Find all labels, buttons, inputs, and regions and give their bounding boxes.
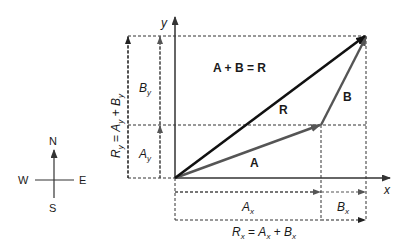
compass-north: N [49, 135, 57, 147]
compass-east: E [79, 174, 86, 186]
vector-addition-diagram: x y A + B = R R B A By Ay Ax Bx Rx = Ax … [0, 0, 400, 248]
bx-label: Bx [337, 200, 350, 216]
vector-a-label: A [250, 156, 259, 170]
compass-rose: N S W E [18, 135, 86, 214]
vector-b [321, 37, 366, 125]
x-axis-label: x [383, 183, 391, 197]
compass-south: S [49, 202, 56, 214]
vector-b-label: B [343, 90, 352, 104]
ay-label: Ay [138, 147, 152, 163]
compass-west: W [18, 174, 29, 186]
ry-equation: Ry = Ay + By [109, 93, 125, 158]
y-axis-label: y [160, 16, 168, 30]
vector-r [175, 36, 365, 178]
vector-r-label: R [279, 103, 288, 117]
vector-a [175, 125, 320, 178]
equation-label: A + B = R [213, 61, 266, 75]
rx-equation: Rx = Ax + Bx [232, 225, 297, 241]
ax-label: Ax [241, 200, 255, 216]
by-label: By [139, 81, 152, 97]
